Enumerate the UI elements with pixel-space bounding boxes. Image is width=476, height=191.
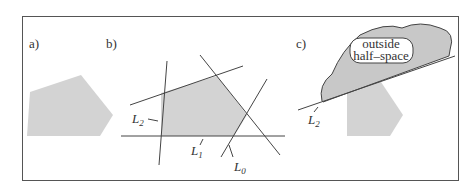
panel-b-label: b) (106, 36, 117, 51)
leader-L0 (229, 145, 233, 157)
panel-a: a) (27, 36, 113, 136)
panel-a-label: a) (29, 36, 39, 51)
intersection-polygon (161, 76, 247, 136)
leader-L2 (148, 119, 158, 121)
label-L1: L1 (190, 143, 203, 160)
label-L2: L2 (131, 111, 144, 128)
panel-c: c) outside half–space L2 (296, 24, 455, 136)
panel-c-label: c) (296, 36, 306, 51)
label-L0: L0 (233, 159, 246, 176)
panel-b: b) L2 L1 L0 (106, 36, 285, 176)
leader-L1 (200, 139, 203, 145)
diagram-figure: a) b) L2 L1 L0 c) outside half–space L2 (0, 0, 476, 191)
convex-polygon (27, 75, 113, 136)
region-label-line2: half–space (353, 48, 409, 63)
label-L2-c: L2 (307, 112, 320, 129)
